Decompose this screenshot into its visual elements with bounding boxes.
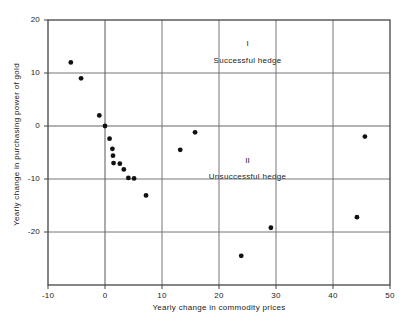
data-point [111, 161, 116, 166]
data-point [363, 134, 368, 139]
data-point [121, 167, 126, 172]
data-point [355, 215, 360, 220]
data-point [97, 113, 102, 118]
data-point [110, 146, 115, 151]
axis-tick-marks [44, 20, 390, 289]
data-point [239, 253, 244, 258]
data-point [79, 76, 84, 81]
data-point [107, 136, 112, 141]
data-point [268, 225, 273, 230]
data-point [178, 147, 183, 152]
data-point [193, 130, 198, 135]
plot-canvas [0, 0, 401, 322]
data-point [126, 176, 131, 181]
data-point [117, 161, 122, 166]
scatter-chart-figure: Yearly change in purchasing power of gol… [0, 0, 401, 322]
data-point [68, 60, 73, 65]
data-point [144, 193, 149, 198]
grid-lines [48, 20, 390, 285]
data-point [111, 153, 116, 158]
data-point [132, 176, 137, 181]
data-points [68, 60, 367, 258]
data-point [103, 124, 108, 129]
